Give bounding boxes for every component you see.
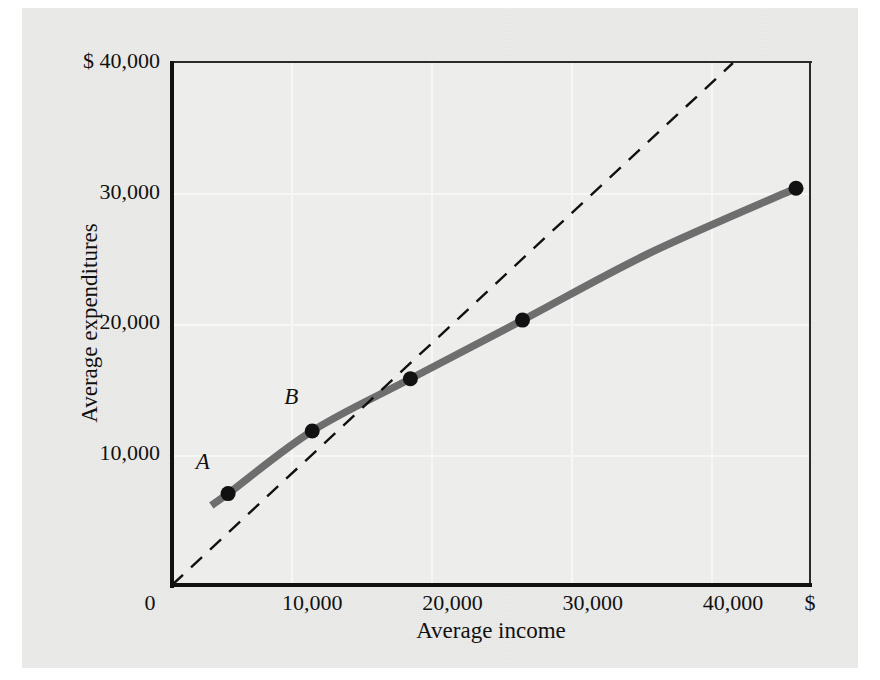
consumption-function-curve bbox=[211, 188, 796, 505]
figure-canvas: 10,00020,00030,000$ 40,000 010,00020,000… bbox=[0, 0, 880, 680]
x-tick-label: 30,000 bbox=[562, 590, 623, 616]
x-axis-title: Average income bbox=[416, 618, 566, 644]
point-label-a: A bbox=[196, 449, 210, 475]
data-point-marker bbox=[403, 371, 418, 386]
y-axis-title: Average expenditures bbox=[77, 193, 103, 453]
point-label-b: B bbox=[284, 384, 298, 410]
data-point-marker bbox=[305, 424, 320, 439]
x-tick-label: 40,000 bbox=[703, 590, 764, 616]
data-point-marker bbox=[789, 181, 804, 196]
x-tick-label: 10,000 bbox=[282, 590, 343, 616]
x-tick-label: $ bbox=[805, 590, 816, 616]
y-tick-label: $ 40,000 bbox=[0, 48, 160, 74]
data-point-marker bbox=[515, 313, 530, 328]
data-point-marker bbox=[221, 486, 236, 501]
x-tick-label: 20,000 bbox=[422, 590, 483, 616]
reference-line-45-degree bbox=[172, 63, 733, 585]
data-layer bbox=[0, 0, 880, 680]
x-tick-label: 0 bbox=[145, 590, 156, 616]
